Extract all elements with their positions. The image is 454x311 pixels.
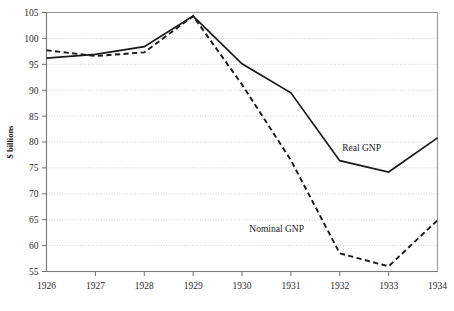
x-axis: 192619271928192919301931193219331934 [37, 272, 447, 291]
y-tick-label: 95 [29, 60, 39, 70]
y-tick-label: 80 [29, 137, 39, 147]
y-tick-label: 100 [24, 34, 39, 44]
gnp-line-chart: 556065707580859095100105 192619271928192… [0, 0, 454, 311]
y-tick-label: 75 [29, 163, 39, 173]
gridlines-group [47, 38, 438, 245]
series-annotations: Real GNP Nominal GNP [249, 143, 381, 234]
y-axis: 556065707580859095100105 [24, 8, 46, 277]
y-tick-label: 60 [29, 241, 39, 251]
chart-canvas: 556065707580859095100105 192619271928192… [0, 0, 454, 311]
x-tick-label: 1930 [233, 281, 252, 291]
series-group [47, 16, 438, 266]
y-tick-label: 65 [29, 215, 39, 225]
x-tick-label: 1933 [379, 281, 398, 291]
y-axis-title-group: $ billions [5, 125, 15, 159]
y-tick-label: 70 [29, 189, 39, 199]
y-tick-label: 90 [29, 86, 39, 96]
x-tick-label: 1927 [86, 281, 105, 291]
series-label-real-gnp: Real GNP [342, 143, 381, 153]
x-tick-label: 1934 [428, 281, 447, 291]
y-tick-label: 105 [24, 8, 39, 18]
x-tick-label: 1926 [37, 281, 56, 291]
y-tick-label: 85 [29, 112, 39, 122]
y-tick-label: 55 [29, 267, 39, 277]
series-label-nominal-gnp: Nominal GNP [249, 224, 304, 234]
x-tick-label: 1932 [330, 281, 349, 291]
x-tick-label: 1929 [184, 281, 203, 291]
y-axis-title: $ billions [5, 125, 15, 159]
x-tick-label: 1931 [281, 281, 300, 291]
x-tick-label: 1928 [135, 281, 154, 291]
